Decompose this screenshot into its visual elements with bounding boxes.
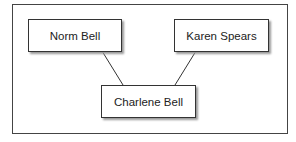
node-label: Karen Spears — [186, 30, 256, 42]
node-charlene-bell: Charlene Bell — [101, 85, 196, 118]
node-label: Norm Bell — [50, 30, 100, 42]
node-norm-bell: Norm Bell — [28, 19, 122, 52]
edge-karen-charlene — [175, 51, 196, 85]
node-label: Charlene Bell — [114, 96, 183, 108]
edge-norm-charlene — [102, 51, 123, 85]
node-karen-spears: Karen Spears — [174, 19, 269, 52]
